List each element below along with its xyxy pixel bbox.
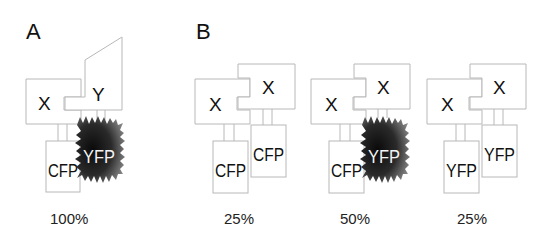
percentage-b3: 25% [457,210,487,227]
percentage-b1: 25% [224,210,254,227]
protein-x-label: X [38,93,51,114]
protein-x-label: X [441,94,454,115]
percentage-a: 100% [50,210,88,227]
complex-cfp-cfp: X X CFP CFP 25% [195,64,295,227]
protein-x2-label: X [377,77,390,98]
panel-label-a: A [26,19,41,44]
complex-yfp-yfp: X X YFP YFP 25% [427,64,526,227]
cfp-label: CFP [331,161,362,181]
cfp-label: CFP [215,161,246,181]
yfp-label: YFP [446,161,477,181]
fret-diagram: A X Y CFP YFP 100% B X X CFP CFP [0,0,547,234]
protein-x-label: X [325,94,338,115]
yfp-label: YFP [83,147,115,167]
protein-y-label: Y [92,84,105,105]
cfp-label: CFP [48,161,78,181]
protein-x2-label: X [262,77,275,98]
panel-label-b: B [196,19,211,44]
complex-cfp-yfp: X X CFP YFP 50% [311,64,410,227]
protein-x2-label: X [493,77,506,98]
yfp-label: YFP [484,145,515,165]
yfp-label: YFP [368,147,400,167]
cfp-label: CFP [253,145,284,165]
panel-a: A X Y CFP YFP 100% [26,19,125,227]
protein-x-label: X [209,94,222,115]
percentage-b2: 50% [340,210,370,227]
